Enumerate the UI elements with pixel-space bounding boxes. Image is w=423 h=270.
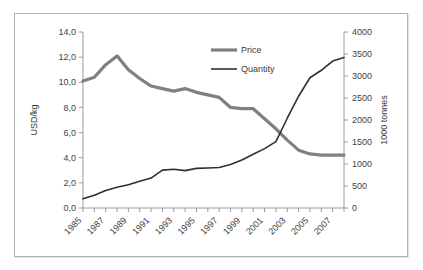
y-axis-left-tick-label: 10,0 — [58, 77, 76, 87]
x-axis-tick-label: 1999 — [221, 215, 242, 236]
y-axis-right-tick-label: 2000 — [352, 115, 372, 125]
y-axis-right-tick-label: 4000 — [352, 27, 372, 37]
price-quantity-line-chart: 0,02,04,06,08,010,012,014,00500100015002… — [15, 14, 409, 258]
series-line-price — [83, 56, 344, 155]
y-axis-right-tick-label: 2500 — [352, 93, 372, 103]
x-axis-tick-label: 2003 — [266, 215, 287, 236]
x-axis-tick-label: 2001 — [244, 215, 265, 236]
x-axis-tick-label: 1993 — [153, 215, 174, 236]
y-axis-left-tick-label: 12,0 — [58, 52, 76, 62]
x-axis-tick-label: 1995 — [176, 215, 197, 236]
x-axis-tick-label: 1989 — [108, 215, 129, 236]
x-axis-tick-label: 1997 — [198, 215, 219, 236]
y-axis-right-tick-label: 1500 — [352, 137, 372, 147]
y-axis-left-tick-label: 6,0 — [63, 128, 76, 138]
x-axis-tick-label: 1985 — [62, 215, 83, 236]
y-axis-left-tick-label: 14,0 — [58, 27, 76, 37]
legend-item-quantity: Quantity — [211, 64, 275, 74]
y-axis-right-title: 1000 tonnes — [379, 95, 389, 145]
x-axis-tick-label: 1987 — [85, 215, 106, 236]
y-axis-left-tick-label: 8,0 — [63, 103, 76, 113]
y-axis-right-tick-label: 500 — [352, 181, 367, 191]
y-axis-left-tick-label: 0,0 — [63, 203, 76, 213]
series-line-quantity — [83, 58, 344, 199]
x-axis-tick-label: 2005 — [289, 215, 310, 236]
y-axis-right-tick-label: 3000 — [352, 71, 372, 81]
x-axis-tick-label: 2007 — [312, 215, 333, 236]
y-axis-left-title: USD/kg — [29, 104, 39, 135]
y-axis-right-tick-label: 0 — [352, 203, 357, 213]
y-axis-right-tick-label: 1000 — [352, 159, 372, 169]
y-axis-right-tick-label: 3500 — [352, 49, 372, 59]
y-axis-left-tick-label: 2,0 — [63, 178, 76, 188]
y-axis-left-tick-label: 4,0 — [63, 153, 76, 163]
legend-item-price: Price — [211, 45, 262, 55]
chart-frame: 0,02,04,06,08,010,012,014,00500100015002… — [14, 13, 408, 257]
legend-label-quantity: Quantity — [241, 64, 275, 74]
x-axis-tick-label: 1991 — [130, 215, 151, 236]
legend-label-price: Price — [241, 45, 262, 55]
